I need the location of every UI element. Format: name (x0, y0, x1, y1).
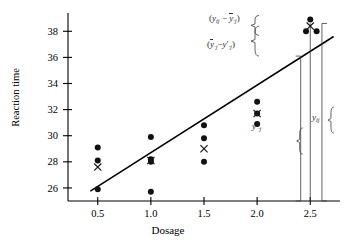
data-point (148, 189, 154, 195)
paren-close: ) (237, 13, 240, 23)
y-tick-label: 32 (48, 104, 59, 115)
data-point (201, 135, 207, 141)
data-point (201, 159, 207, 165)
x-tick-label: 1.0 (144, 208, 157, 219)
group-mean-markers (94, 22, 314, 170)
data-point (95, 186, 101, 192)
scatter-plot-figure: 26283032343638 0.51.01.52.02.5 Reaction … (0, 0, 352, 244)
symbol-ybar: y (229, 13, 233, 23)
plot-canvas: 26283032343638 0.51.01.52.02.5 (0, 0, 352, 244)
y-tick-label: 26 (48, 183, 59, 194)
y-tick-label: 28 (48, 156, 59, 167)
annotation-fitted-value: y′·j (252, 122, 261, 132)
x-axis-ticks: 0.51.01.52.02.5 (91, 197, 317, 219)
subscript-ij: ij (216, 17, 220, 24)
data-point (314, 28, 320, 34)
regression-line (90, 37, 333, 192)
group-mean-marker (200, 145, 207, 152)
x-tick-label: 0.5 (91, 208, 104, 219)
data-point (201, 122, 207, 128)
annotation-observed-value: yij (312, 113, 320, 123)
data-point (148, 134, 154, 140)
x-tick-label: 2.5 (304, 208, 317, 219)
y-tick-label: 36 (48, 52, 59, 63)
annotation-lack-of-fit-deviation: (y·j−y′·j) (207, 40, 235, 50)
paren-close: ) (232, 39, 235, 49)
x-axis-title: Dosage (128, 224, 208, 236)
x-tick-label: 1.5 (197, 208, 210, 219)
subscript-ij: ij (316, 116, 320, 123)
regression-line-group (90, 37, 333, 192)
bracket-fitted-value (296, 56, 301, 201)
symbol-ybar: y (210, 39, 214, 49)
data-point (307, 17, 313, 23)
data-point (254, 99, 260, 105)
minus-sign: − (222, 13, 227, 23)
data-point (95, 158, 101, 164)
axes (68, 13, 340, 201)
pointer-observed-label (328, 107, 334, 133)
annotation-within-group-deviation: (yij − y·j) (209, 14, 240, 24)
x-tick-label: 2.0 (251, 208, 264, 219)
y-tick-label: 38 (48, 26, 59, 37)
group-mean-marker (94, 163, 101, 170)
bracket-observed-value (322, 23, 327, 201)
data-point (95, 144, 101, 150)
y-tick-label: 34 (48, 78, 59, 89)
data-point (303, 28, 309, 34)
y-tick-label: 30 (48, 130, 59, 141)
subscript-dot-j: ·j (258, 125, 261, 132)
pointer-fitted-label (297, 128, 303, 154)
bracket-lack-of-fit (251, 26, 259, 56)
y-axis-title: Reaction time (10, 58, 21, 138)
